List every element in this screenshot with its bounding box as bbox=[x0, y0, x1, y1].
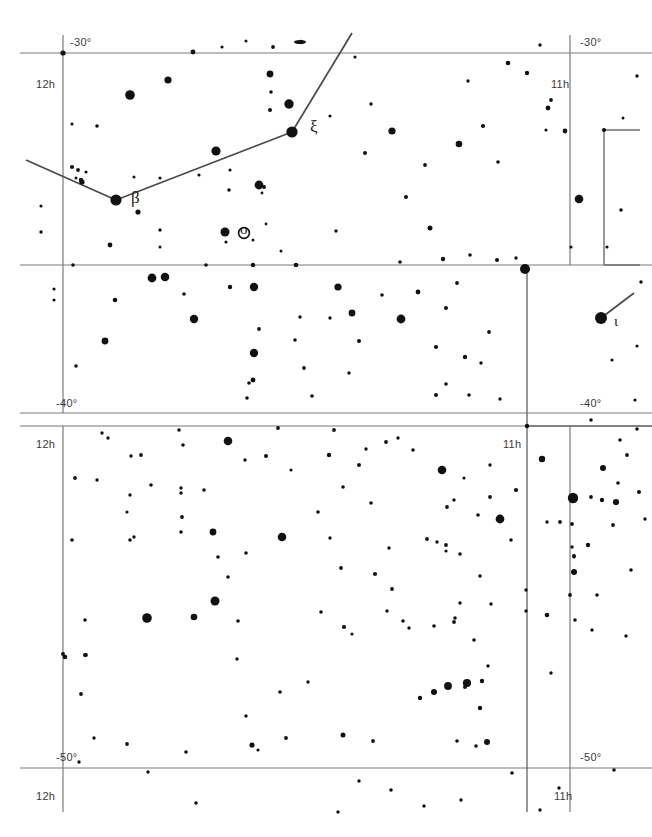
star-marker bbox=[589, 495, 593, 499]
star-marker bbox=[278, 690, 282, 694]
star-marker bbox=[235, 657, 238, 660]
star-marker bbox=[538, 808, 541, 811]
star-marker bbox=[76, 168, 80, 172]
axis-tick-dec-bot-left: -50° bbox=[56, 751, 78, 763]
star-marker bbox=[197, 173, 200, 176]
star-marker bbox=[347, 371, 350, 374]
star-marker bbox=[294, 263, 299, 268]
star-marker bbox=[506, 61, 511, 66]
star-marker bbox=[194, 801, 198, 805]
star-marker bbox=[256, 748, 259, 751]
star-marker bbox=[468, 253, 472, 257]
star-marker bbox=[179, 530, 183, 534]
star-marker bbox=[487, 330, 491, 334]
star-marker bbox=[244, 714, 247, 717]
star-marker bbox=[298, 315, 301, 318]
star-marker bbox=[181, 443, 185, 447]
right-ascension-gridlines bbox=[63, 35, 570, 812]
star-marker bbox=[452, 620, 456, 624]
star-marker bbox=[132, 535, 135, 538]
star-marker bbox=[243, 458, 246, 461]
star-marker bbox=[129, 454, 132, 457]
star-marker bbox=[158, 228, 161, 231]
star-marker bbox=[480, 679, 484, 683]
star-marker bbox=[52, 298, 55, 301]
star-marker bbox=[514, 488, 518, 492]
star-marker bbox=[75, 177, 78, 180]
star-marker bbox=[341, 485, 345, 489]
star-marker bbox=[545, 613, 550, 618]
star-marker bbox=[456, 141, 463, 148]
star-marker bbox=[191, 50, 196, 55]
star-marker bbox=[284, 736, 288, 740]
star-marker bbox=[245, 40, 248, 43]
star-marker bbox=[95, 478, 98, 481]
star-marker bbox=[204, 263, 208, 267]
star-marker bbox=[226, 575, 230, 579]
star-marker bbox=[244, 551, 248, 555]
nebula-top bbox=[294, 40, 306, 44]
star-marker bbox=[611, 523, 615, 527]
star-marker bbox=[459, 798, 462, 801]
axis-tick-ra-bot-right: 11h bbox=[554, 790, 572, 802]
star-marker bbox=[177, 428, 181, 432]
axis-tick-ra-mid-left: 12h bbox=[36, 438, 55, 450]
star-marker bbox=[434, 345, 438, 349]
star-marker bbox=[70, 122, 73, 125]
star-marker bbox=[549, 98, 553, 102]
star-marker bbox=[568, 593, 572, 597]
star-marker bbox=[423, 163, 427, 167]
star-marker bbox=[255, 181, 264, 190]
axis-tick-dec-top-right: -30° bbox=[580, 36, 602, 48]
star-marker bbox=[546, 106, 551, 111]
star-marker bbox=[563, 129, 568, 134]
star-marker bbox=[397, 315, 406, 324]
star-marker bbox=[70, 538, 74, 542]
star-marker bbox=[633, 398, 636, 401]
star-marker bbox=[466, 79, 469, 82]
axis-tick-dec-bot-right: -50° bbox=[580, 751, 602, 763]
star-marker bbox=[635, 74, 638, 77]
star-marker bbox=[267, 71, 274, 78]
star-marker bbox=[251, 263, 255, 267]
star-marker bbox=[589, 418, 593, 422]
star-marker bbox=[250, 283, 258, 291]
star-marker bbox=[342, 625, 346, 629]
star-marker bbox=[625, 453, 629, 457]
star-marker bbox=[79, 692, 83, 696]
star-marker bbox=[327, 453, 331, 457]
star-marker bbox=[332, 428, 336, 432]
star-marker bbox=[39, 204, 42, 207]
star-marker bbox=[514, 256, 517, 259]
star-marker bbox=[629, 568, 633, 572]
star-marker bbox=[418, 696, 422, 700]
star-marker bbox=[135, 209, 140, 214]
star-marker bbox=[74, 364, 78, 368]
star-marker bbox=[159, 246, 162, 249]
star-marker bbox=[488, 463, 491, 466]
star-marker bbox=[79, 179, 84, 184]
star-marker bbox=[71, 263, 75, 267]
star-marker bbox=[525, 71, 529, 75]
star-marker bbox=[251, 378, 256, 383]
declination-gridlines bbox=[20, 53, 652, 768]
star-marker bbox=[228, 285, 232, 289]
star-marker bbox=[106, 436, 109, 439]
nebula-markers bbox=[294, 40, 306, 44]
star-marker bbox=[60, 50, 65, 55]
star-marker bbox=[388, 127, 395, 134]
star-marker bbox=[396, 436, 399, 439]
axis-tick-dec-mid-left: -40° bbox=[56, 397, 78, 409]
star-marker bbox=[328, 316, 331, 319]
star-marker bbox=[444, 682, 452, 690]
star-marker bbox=[463, 355, 467, 359]
star-marker bbox=[435, 540, 438, 543]
axis-tick-dec-mid-right: -40° bbox=[580, 397, 602, 409]
star-marker bbox=[479, 361, 482, 364]
star-marker bbox=[452, 498, 455, 501]
star-marker bbox=[202, 488, 206, 492]
star-marker bbox=[586, 543, 590, 547]
star-marker bbox=[635, 344, 638, 347]
star-marker bbox=[276, 426, 280, 430]
star-marker bbox=[236, 619, 240, 623]
